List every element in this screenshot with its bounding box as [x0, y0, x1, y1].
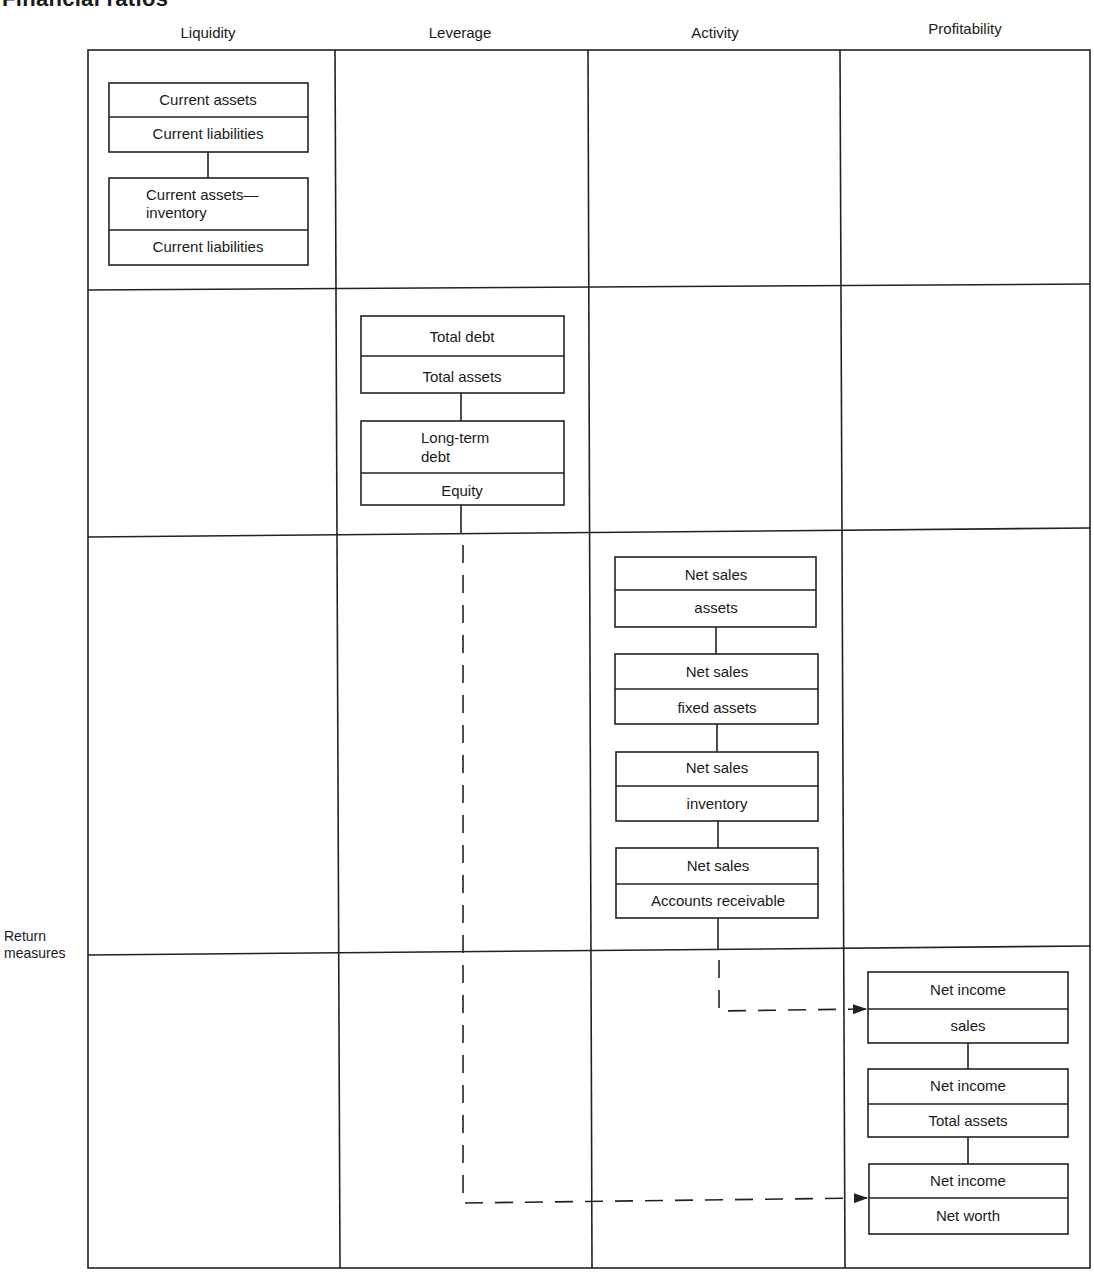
ratio-box-debt-ratio: Total debt Total assets [361, 316, 564, 393]
svg-text:Current assets: Current assets [159, 91, 257, 108]
svg-text:Net income: Net income [930, 981, 1006, 998]
svg-text:fixed assets: fixed assets [677, 699, 756, 716]
ratio-box-return-on-assets: Net income Total assets [868, 1069, 1068, 1137]
svg-text:Net income: Net income [930, 1077, 1006, 1094]
svg-text:Current assets—: Current assets— [146, 186, 259, 203]
svg-text:Net sales: Net sales [687, 857, 750, 874]
svg-text:Total debt: Total debt [429, 328, 495, 345]
svg-text:Total assets: Total assets [422, 368, 501, 385]
ratio-box-net-profit-margin: Net income sales [868, 972, 1068, 1043]
svg-text:Net sales: Net sales [685, 566, 748, 583]
svg-text:sales: sales [950, 1017, 985, 1034]
svg-text:assets: assets [694, 599, 737, 616]
svg-text:inventory: inventory [146, 204, 207, 221]
svg-text:Net income: Net income [930, 1172, 1006, 1189]
svg-text:Current liabilities: Current liabilities [153, 238, 264, 255]
svg-text:Net sales: Net sales [686, 663, 749, 680]
svg-text:Equity: Equity [441, 482, 483, 499]
ratio-box-fixed-asset-turnover: Net sales fixed assets [615, 654, 818, 724]
svg-text:Accounts receivable: Accounts receivable [651, 892, 785, 909]
svg-text:debt: debt [421, 448, 451, 465]
ratio-box-debt-equity-ratio: Long-term debt Equity [361, 421, 564, 505]
ratio-box-quick-ratio: Current assets— inventory Current liabil… [109, 178, 308, 265]
ratio-box-return-on-equity: Net income Net worth [869, 1164, 1068, 1234]
ratio-diagram: Current assets Current liabilities Curre… [0, 0, 1094, 1272]
svg-text:Long-term: Long-term [421, 429, 489, 446]
svg-text:Net sales: Net sales [686, 759, 749, 776]
svg-text:Current liabilities: Current liabilities [153, 125, 264, 142]
svg-text:Net worth: Net worth [936, 1207, 1000, 1224]
svg-text:inventory: inventory [687, 795, 748, 812]
ratio-box-asset-turnover: Net sales assets [615, 557, 816, 627]
svg-text:Total assets: Total assets [928, 1112, 1007, 1129]
ratio-box-current-ratio: Current assets Current liabilities [109, 83, 308, 152]
ratio-box-receivables-turnover: Net sales Accounts receivable [616, 848, 818, 918]
ratio-box-inventory-turnover: Net sales inventory [616, 752, 818, 821]
